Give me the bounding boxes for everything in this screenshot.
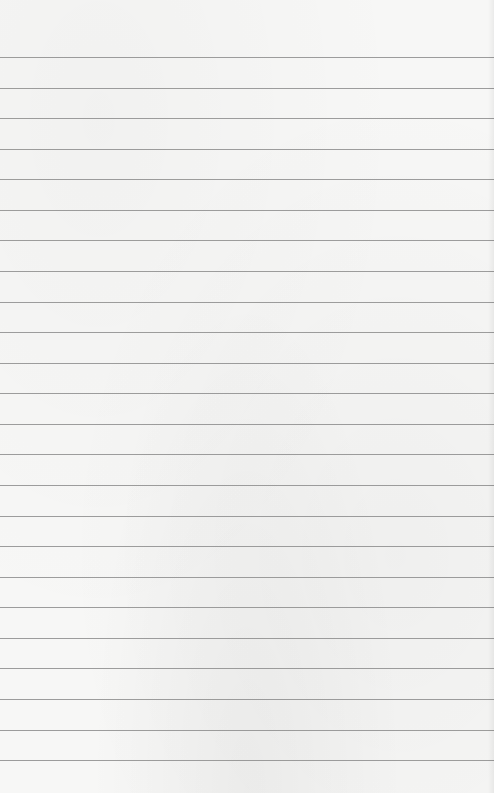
ruled-line xyxy=(0,730,494,732)
ruled-line xyxy=(0,88,494,90)
ruled-line xyxy=(0,607,494,609)
ruled-line xyxy=(0,454,494,456)
ruled-line xyxy=(0,271,494,273)
ruled-line xyxy=(0,363,494,365)
ruled-line xyxy=(0,546,494,548)
ruled-line xyxy=(0,179,494,181)
ruled-line xyxy=(0,424,494,426)
ruled-line xyxy=(0,577,494,579)
ruled-line xyxy=(0,302,494,304)
ruled-line xyxy=(0,332,494,334)
ruled-line xyxy=(0,240,494,242)
ruled-line xyxy=(0,485,494,487)
ruled-line xyxy=(0,393,494,395)
ruled-line xyxy=(0,699,494,701)
ruled-line xyxy=(0,149,494,151)
ruled-line xyxy=(0,118,494,120)
ruled-line xyxy=(0,57,494,59)
ruled-line xyxy=(0,760,494,762)
ruled-line xyxy=(0,210,494,212)
ruled-line xyxy=(0,668,494,670)
ruled-line xyxy=(0,638,494,640)
ruled-line xyxy=(0,516,494,518)
lined-paper-sheet xyxy=(0,0,494,793)
